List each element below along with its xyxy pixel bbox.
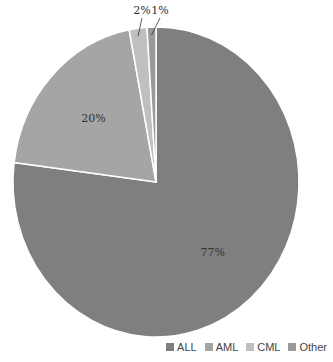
legend-swatch [288,343,296,351]
slice-label-all: 77% [201,246,225,259]
legend-label: CML [257,341,280,353]
legend-item-all: ALL [166,341,197,353]
legend: ALL AML CML Other [0,341,333,353]
legend-label: ALL [177,341,197,353]
legend-item-aml: AML [205,341,239,353]
legend-swatch [166,343,174,351]
slice-label-cml: 2% [133,4,150,17]
pie-chart: 77%20%2%1% [0,0,333,340]
legend-label: Other [299,341,327,353]
legend-swatch [246,343,254,351]
legend-label: AML [216,341,239,353]
legend-item-other: Other [288,341,327,353]
legend-item-cml: CML [246,341,280,353]
legend-swatch [205,343,213,351]
slice-label-aml: 20% [81,112,105,125]
slice-label-other: 1% [151,4,168,17]
